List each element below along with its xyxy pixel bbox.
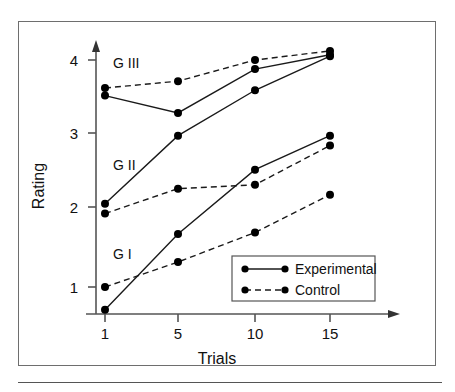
y-tick-label-4: 4 — [70, 52, 78, 69]
legend: Experimental Control — [232, 256, 377, 301]
group-label-g1: G I — [113, 246, 132, 262]
series-line — [105, 146, 330, 214]
x-tick-label-10: 10 — [247, 325, 264, 342]
data-point — [326, 47, 334, 55]
y-axis — [92, 40, 100, 314]
legend-marker-right — [281, 286, 288, 293]
data-point — [101, 200, 109, 208]
data-point — [251, 86, 259, 94]
data-point — [101, 283, 109, 291]
legend-marker-left — [241, 265, 248, 272]
legend-marker-right — [281, 265, 288, 272]
x-axis-ticks — [105, 314, 330, 322]
y-axis-title: Rating — [30, 163, 47, 209]
data-point — [101, 92, 109, 100]
x-tick-label-5: 5 — [174, 325, 182, 342]
data-point — [326, 142, 334, 150]
data-point — [251, 166, 259, 174]
data-point — [251, 65, 259, 73]
y-tick-label-2: 2 — [70, 199, 78, 216]
x-axis-title: Trials — [198, 350, 237, 367]
legend-marker-left — [241, 286, 248, 293]
data-point — [174, 77, 182, 85]
legend-label-experimental: Experimental — [295, 261, 377, 277]
y-tick-label-3: 3 — [70, 125, 78, 142]
group-label-g3: G III — [113, 55, 139, 71]
figure-container: 4 3 2 1 1 5 10 15 Trials Rating G III G … — [0, 0, 455, 392]
data-point — [174, 230, 182, 238]
data-point — [101, 210, 109, 218]
series-line — [105, 56, 330, 204]
data-point — [174, 185, 182, 193]
data-point — [174, 132, 182, 140]
y-tick-label-1: 1 — [70, 279, 78, 296]
data-point — [251, 56, 259, 64]
group-label-g2: G II — [113, 157, 136, 173]
bottom-divider — [18, 382, 442, 383]
x-tick-label-1: 1 — [101, 325, 109, 342]
data-point — [101, 84, 109, 92]
data-point — [174, 258, 182, 266]
data-point — [174, 109, 182, 117]
series-gii-control — [101, 142, 334, 218]
series-gii-experimental — [101, 52, 334, 208]
legend-label-control: Control — [295, 282, 340, 298]
line-chart: 4 3 2 1 1 5 10 15 Trials Rating G III G … — [0, 0, 455, 392]
x-axis — [86, 310, 400, 318]
y-axis-ticks — [88, 60, 96, 287]
x-tick-label-15: 15 — [322, 325, 339, 342]
data-point — [251, 229, 259, 237]
data-point — [326, 132, 334, 140]
data-point — [251, 181, 259, 189]
data-point — [101, 306, 109, 314]
data-point — [326, 191, 334, 199]
